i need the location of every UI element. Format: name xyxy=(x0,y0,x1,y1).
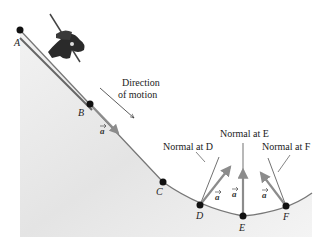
svg-text:C: C xyxy=(156,186,163,197)
direction-of-motion: Direction of motion xyxy=(100,77,160,118)
skier-motion-diagram: Direction of motion a Normal at D a Norm… xyxy=(0,0,331,250)
svg-text:D: D xyxy=(195,210,204,221)
direction-label-2: of motion xyxy=(118,89,157,100)
svg-text:A: A xyxy=(13,37,21,48)
normal-f-label: Normal at F xyxy=(262,141,311,152)
normal-f: Normal at F a xyxy=(261,141,311,206)
normal-e-label: Normal at E xyxy=(220,128,269,139)
point-f: F xyxy=(282,203,290,223)
svg-text:F: F xyxy=(282,211,290,222)
svg-text:E: E xyxy=(238,222,245,233)
normal-d-label: Normal at D xyxy=(163,141,213,152)
direction-label-1: Direction xyxy=(122,77,160,88)
svg-text:B: B xyxy=(78,107,84,118)
